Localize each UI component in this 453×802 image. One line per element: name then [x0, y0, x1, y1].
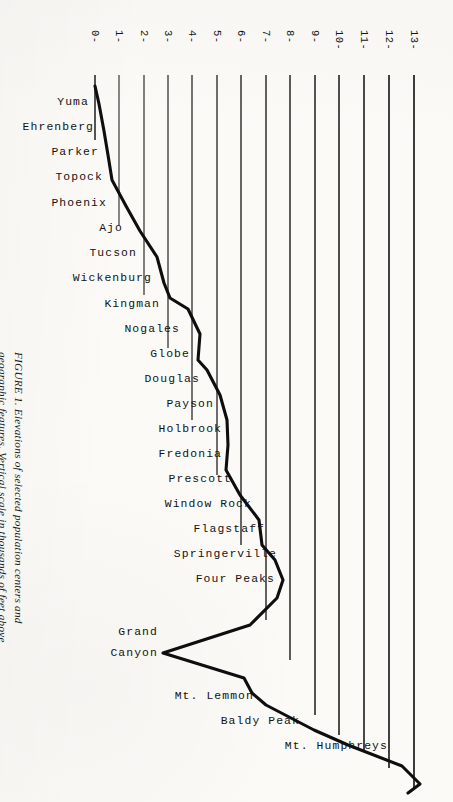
category-label: Douglas: [144, 373, 200, 385]
axis-tick-label: 13-: [408, 30, 420, 50]
category-label: Mt. Humphreys: [285, 740, 388, 752]
category-label: Phoenix: [51, 197, 107, 209]
category-label: Topock: [55, 171, 103, 183]
category-label: Ajo: [99, 222, 123, 234]
axis-tick-label: 7-: [260, 30, 272, 44]
category-label: Springerville: [174, 548, 277, 560]
category-label: GrandCanyon: [110, 626, 158, 659]
axis-tick-label: 9-: [309, 30, 321, 44]
axis-tick-label: 8-: [284, 30, 296, 44]
axis-tick-label: 3-: [162, 30, 174, 44]
category-label: Window Rock: [165, 498, 252, 510]
axis-tick-label: 12-: [383, 30, 395, 50]
category-label: Four Peaks: [196, 573, 275, 585]
axis-tick-label: 10-: [333, 30, 345, 50]
figure-caption: FIGURE 1. Elevations of selected populat…: [0, 352, 26, 652]
figure-container: 0-1-2-3-4-5-6-7-8-9-10-11-12-13- YumaEhr…: [0, 0, 453, 802]
axis-tick-label: 4-: [186, 30, 198, 44]
category-label: Yuma: [57, 96, 89, 108]
category-label: Wickenburg: [73, 272, 152, 284]
category-label: Tucson: [89, 247, 137, 259]
axis-tick-label: 11-: [358, 30, 370, 50]
category-label: Holbrook: [159, 423, 222, 435]
category-label: Fredonia: [159, 448, 222, 460]
axis-tick-label: 0-: [89, 30, 101, 44]
axis-tick-label: 2-: [138, 30, 150, 44]
category-label: Kingman: [104, 298, 160, 310]
category-label: Mt. Lemmon: [175, 690, 254, 702]
category-label: Prescott: [169, 473, 232, 485]
category-label: Flagstaff: [194, 523, 265, 535]
axis-tick-label: 1-: [113, 30, 125, 44]
category-label: Ehrenberg: [23, 121, 94, 133]
gridlines-group: [95, 75, 414, 790]
axis-tick-label: 6-: [235, 30, 247, 44]
category-label: Globe: [150, 348, 190, 360]
category-label: Baldy Peak: [221, 715, 300, 727]
category-label: Nogales: [124, 323, 180, 335]
axis-tick-label: 5-: [211, 30, 223, 44]
category-label: Payson: [166, 398, 214, 410]
category-label: Parker: [51, 146, 99, 158]
